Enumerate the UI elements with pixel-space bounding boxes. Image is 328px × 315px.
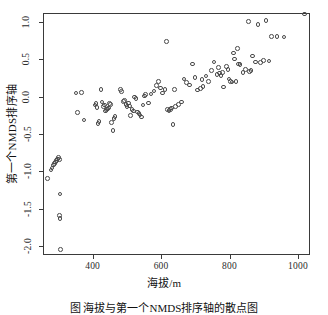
data-point (206, 79, 211, 84)
data-point (156, 79, 161, 84)
data-point (275, 34, 280, 39)
data-point (97, 119, 102, 124)
data-point (190, 62, 195, 67)
data-point (45, 176, 50, 181)
data-point (212, 60, 217, 65)
data-point (141, 103, 146, 108)
x-tick-mark (93, 255, 94, 259)
data-point (238, 62, 243, 67)
data-point (113, 114, 118, 119)
data-point (111, 128, 116, 133)
x-tick-label: 800 (222, 261, 237, 271)
data-point (216, 65, 221, 70)
y-tick-label: -1.0 (23, 163, 33, 179)
data-point (231, 51, 236, 56)
y-tick-label: 0.0 (21, 90, 31, 102)
data-point (74, 91, 79, 96)
x-tick-label: 400 (85, 261, 100, 271)
data-point (200, 77, 205, 82)
y-tick-mark (39, 246, 43, 247)
data-point (220, 70, 225, 75)
data-point (79, 90, 84, 95)
data-points-layer (44, 14, 309, 254)
data-point (302, 12, 307, 17)
data-point (267, 59, 272, 64)
data-point (58, 192, 63, 197)
data-point (82, 118, 87, 123)
y-tick-label: -1.5 (23, 201, 33, 217)
y-axis-label: 第一个NMDS排序轴 (3, 84, 19, 185)
y-tick-label: 1.0 (21, 16, 31, 28)
data-point (58, 216, 63, 221)
data-point (171, 122, 176, 127)
data-point (187, 83, 192, 88)
x-tick-mark (230, 255, 231, 259)
y-tick-label: 0.5 (21, 53, 31, 65)
data-point (250, 54, 255, 59)
y-tick-label: -0.5 (23, 126, 33, 142)
data-point (134, 96, 139, 101)
x-tick-label: 600 (154, 261, 169, 271)
x-tick-mark (161, 255, 162, 259)
data-point (249, 68, 254, 73)
data-point (201, 84, 206, 89)
y-tick-mark (39, 209, 43, 210)
data-point (58, 247, 63, 252)
data-point (226, 67, 231, 72)
data-point (99, 87, 104, 92)
x-tick-mark (298, 255, 299, 259)
data-point (164, 39, 169, 44)
plot-frame (43, 13, 310, 255)
data-point (179, 100, 184, 105)
x-axis-label: 海拔/m (0, 274, 328, 290)
y-tick-label: -2.0 (23, 238, 33, 254)
data-point (128, 113, 133, 118)
data-point (57, 157, 62, 162)
data-point (95, 105, 100, 110)
data-point (269, 34, 274, 39)
data-point (235, 46, 240, 51)
data-point (193, 75, 198, 80)
figure-caption: 图 海拔与第一个NMDS排序轴的散点图 (0, 299, 328, 315)
data-point (204, 74, 209, 79)
data-point (163, 87, 168, 92)
y-tick-mark (39, 97, 43, 98)
data-point (119, 89, 124, 94)
data-point (146, 101, 151, 106)
data-point (139, 115, 144, 120)
y-tick-mark (39, 171, 43, 172)
data-point (143, 92, 148, 97)
data-point (234, 79, 239, 84)
data-point (261, 58, 266, 63)
y-tick-mark (39, 22, 43, 23)
data-point (152, 89, 157, 94)
data-point (232, 57, 237, 62)
data-point (256, 22, 261, 27)
data-point (246, 19, 251, 24)
data-point (209, 68, 214, 73)
data-point (221, 85, 226, 90)
data-point (264, 18, 269, 23)
data-point (282, 35, 287, 40)
y-tick-mark (39, 134, 43, 135)
data-point (253, 60, 258, 65)
data-point (75, 110, 80, 115)
data-point (108, 102, 113, 107)
data-point (172, 87, 177, 92)
x-tick-label: 1000 (288, 261, 308, 271)
y-tick-mark (39, 59, 43, 60)
